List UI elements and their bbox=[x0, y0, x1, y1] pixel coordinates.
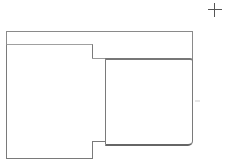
connector-strip bbox=[92, 58, 106, 142]
left-panel bbox=[6, 44, 93, 159]
crosshair-icon bbox=[208, 3, 222, 17]
faint-mark bbox=[195, 100, 200, 102]
right-card bbox=[105, 58, 193, 146]
